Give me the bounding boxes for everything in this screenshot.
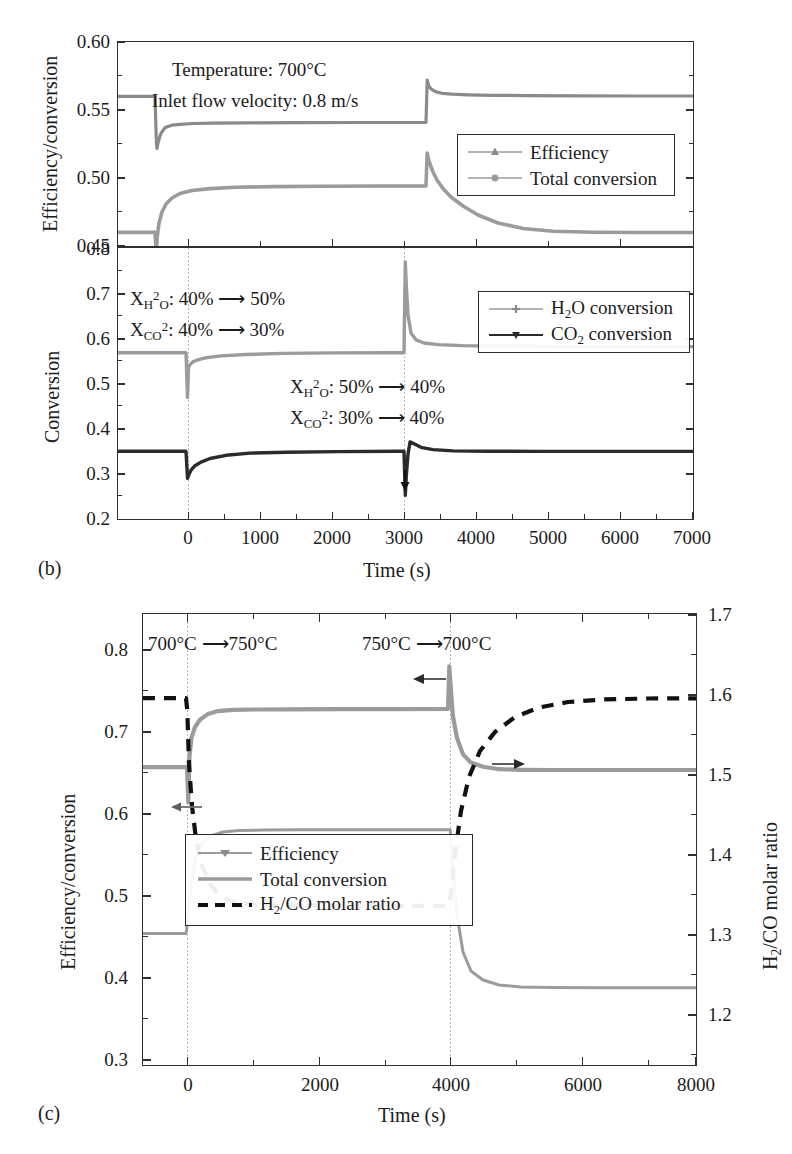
panel-b-bottom-ytickmark [117, 293, 125, 295]
triangle-down-icon [196, 846, 254, 860]
figure-root: 0.60 0.55 0.50 0.45 Efficiency/conversio… [0, 0, 792, 1154]
legend-item-h2co-ratio: H2/CO molar ratio [196, 892, 462, 918]
panel-c-label: (c) [38, 1103, 60, 1123]
panel-c-xtickmark-top [187, 613, 188, 622]
panel-b-bottom-ytickmark-minor [117, 450, 122, 451]
panel-b-bottom-xtickmark-minor [368, 514, 369, 520]
panel-b-bottom-annotation-right-line1: XH2O: 50% ⟶ 40% [290, 377, 445, 400]
right-arrow-icon: ⟶ [218, 288, 245, 309]
panel-c-xtickmark-minor [648, 1060, 649, 1066]
panel-b-bottom-ytickmark-minor [117, 270, 122, 271]
annot-temp-from: 700°C [148, 633, 197, 654]
panel-b-bottom-xtick-5: 5000 [512, 528, 584, 547]
legend-item-h2o-conversion: H2O conversion [487, 296, 681, 322]
panel-c-ytick-left-5: 0.3 [78, 1050, 128, 1069]
legend-label-total-conversion-c: Total conversion [260, 870, 387, 889]
legend-label-h2co-ratio: H2/CO molar ratio [260, 894, 401, 917]
legend-label-total-conversion: Total conversion [530, 169, 657, 188]
annot-value-to: 30% [249, 319, 284, 340]
dashed-line-icon [196, 898, 254, 912]
annot-value-from: : 50% [329, 376, 374, 397]
panel-b-label: (b) [38, 558, 61, 578]
panel-c-xtickmark-minor [253, 1060, 254, 1066]
panel-c-xtick-1: 2000 [284, 1075, 356, 1094]
annot-temp-from: 750°C [362, 633, 411, 654]
annot-sub-co: CO [304, 416, 322, 431]
panel-b-bottom-xtickmark [692, 512, 693, 520]
panel-b-bottom-ytickmark [117, 473, 125, 475]
annot-temp-to: 750°C [229, 633, 278, 654]
panel-c-ytick-right-3: 1.4 [708, 845, 758, 864]
panel-b-top-legend: Efficiency Total conversion [457, 134, 675, 196]
panel-c-xtickmark [319, 1057, 320, 1066]
panel-c-pointer-left [170, 800, 204, 814]
solid-line-icon [196, 872, 254, 886]
panel-c-ytickmark-left-minor [142, 690, 148, 691]
annot-sub-h: H [144, 297, 153, 312]
right-arrow-icon: ⟶ [202, 633, 229, 654]
panel-c-ytickmark-right [688, 1014, 697, 1016]
right-arrow-icon: ⟶ [378, 407, 405, 428]
panel-c-ylabel-right: H2/CO molar ratio [760, 822, 783, 970]
panel-b-top-ylabel: Efficiency/conversion [40, 56, 60, 232]
panel-c-ytickmark-left [142, 895, 151, 897]
panel-b-bottom-xtick-2: 2000 [296, 528, 368, 547]
panel-b-bottom-ylabel: Conversion [42, 351, 62, 443]
panel-b-bottom-annotation-right-line2: XCO2: 30% ⟶ 40% [290, 408, 444, 431]
panel-c-ytick-left-1: 0.7 [78, 722, 128, 741]
panel-b-top-ytickmark-minor [117, 211, 122, 212]
panel-b-bottom-ytickmark-right [686, 428, 694, 430]
panel-b-top-annotation-velocity: Inlet flow velocity: 0.8 m/s [152, 91, 358, 110]
panel-c-ytick-right-0: 1.7 [708, 605, 758, 624]
panel-c-xtickmark [187, 1057, 188, 1066]
panel-b-bottom-ytick-1: 0.7 [60, 284, 110, 303]
panel-c-ytick-left-2: 0.6 [78, 804, 128, 823]
panel-b-bottom-xtickmark [260, 512, 261, 520]
annot-value-from: : 40% [169, 288, 214, 309]
annot-x-symbol: X [130, 319, 144, 340]
right-arrow-icon: ⟶ [218, 319, 245, 340]
panel-c-xtick-0: 0 [158, 1075, 218, 1094]
panel-b-top-ytickmark-right [689, 143, 694, 144]
panel-b-bottom-xtick-3: 3000 [368, 528, 440, 547]
panel-b-top-xtickmark [620, 239, 621, 247]
panel-b-bottom-ytick-3: 0.5 [60, 374, 110, 393]
panel-c-ytickmark-right [688, 694, 697, 696]
panel-c-xtickmark-top [450, 613, 451, 622]
panel-c-xtickmark-top [582, 613, 583, 622]
panel-b-bottom-xtickmark [548, 512, 549, 520]
panel-c-ytickmark-right [688, 614, 697, 616]
panel-c-xtickmark [582, 1057, 583, 1066]
panel-b-bottom-xtickmark-minor [584, 514, 585, 520]
panel-b-bottom-ytickmark-minor [117, 495, 122, 496]
panel-c-ytickmark-left [142, 813, 151, 815]
panel-c-ytickmark-left-minor [142, 772, 148, 773]
right-arrow-icon: ⟶ [378, 376, 405, 397]
series-efficiency-path-c [143, 666, 696, 802]
panel-b-bottom-xtickmark-minor [224, 514, 225, 520]
panel-c-ytickmark-left [142, 1059, 151, 1061]
panel-c-pointer-right-lower [490, 757, 526, 771]
panel-b-bottom-xtickmark-minor [512, 514, 513, 520]
panel-c-ytick-right-2: 1.5 [708, 765, 758, 784]
panel-c-ytickmark-left [142, 731, 151, 733]
panel-c-ytickmark-left-minor [142, 936, 148, 937]
panel-c-xtickmark-minor [516, 1060, 517, 1066]
panel-c-xtickmark-top [516, 613, 517, 619]
panel-c-pointer-right-top [412, 672, 448, 686]
panel-b-top-ytick-2: 0.50 [55, 168, 110, 187]
panel-b-bottom-xtick-1: 1000 [224, 528, 296, 547]
circle-icon [466, 171, 524, 185]
triangle-up-icon [466, 145, 524, 159]
panel-b-bottom-ytickmark-minor [117, 360, 122, 361]
panel-c-ytick-right-5: 1.2 [708, 1005, 758, 1024]
panel-b-bottom-ytickmark [117, 383, 125, 385]
panel-c-ytickmark-right-minor [691, 1054, 697, 1055]
panel-c-xlabel: Time (s) [378, 1105, 446, 1125]
legend-item-co2-conversion: CO2 conversion [487, 322, 681, 348]
annot-value-from: : 40% [168, 319, 213, 340]
panel-b-bottom-ytickmark-right [686, 383, 694, 385]
panel-b-top-ytickmark-right [686, 109, 694, 111]
panel-c-ytickmark-right-minor [691, 814, 697, 815]
legend-label-efficiency: Efficiency [530, 143, 609, 162]
